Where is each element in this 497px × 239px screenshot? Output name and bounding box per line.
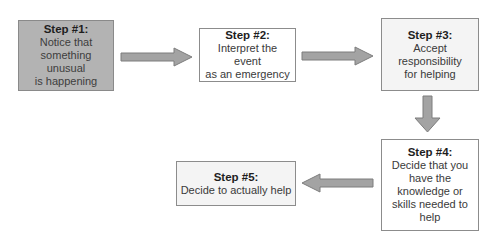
arrow-step4-to-step5 xyxy=(302,174,373,192)
step-4-title: Step #4: xyxy=(408,146,453,159)
arrow-step2-to-step3 xyxy=(302,47,373,65)
arrow-step3-to-step4 xyxy=(415,96,440,132)
step-4-box: Step #4: Decide that you have the knowle… xyxy=(381,139,479,231)
step-2-box: Step #2: Interpret the event as an emerg… xyxy=(199,28,296,82)
step-5-box: Step #5: Decide to actually help xyxy=(176,161,296,206)
step-3-text: Accept responsibility for helping xyxy=(398,42,462,81)
step-1-text: Notice that something unusual is happeni… xyxy=(22,36,110,88)
step-2-text: Interpret the event as an emergency xyxy=(203,42,292,81)
step-1-title: Step #1: xyxy=(44,23,89,36)
step-2-title: Step #2: xyxy=(225,29,270,42)
step-3-title: Step #3: xyxy=(408,29,453,42)
step-3-box: Step #3: Accept responsibility for helpi… xyxy=(381,18,479,91)
step-5-title: Step #5: xyxy=(214,171,259,184)
step-5-text: Decide to actually help xyxy=(181,184,292,197)
step-1-box: Step #1: Notice that something unusual i… xyxy=(18,20,114,91)
arrow-step1-to-step2 xyxy=(121,48,192,66)
step-4-text: Decide that you have the knowledge or sk… xyxy=(392,159,468,224)
